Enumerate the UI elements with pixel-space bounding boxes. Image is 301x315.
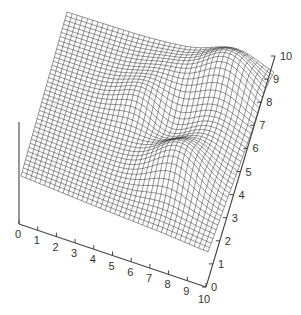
y-tick-label: 1 <box>218 258 224 270</box>
x-tick-label: 4 <box>90 253 96 265</box>
x-tick-label: 10 <box>198 293 210 305</box>
x-tick-label: 6 <box>127 266 133 278</box>
mesh-line <box>100 39 155 208</box>
x-tick-label: 9 <box>183 285 189 297</box>
y-tick-label: 9 <box>273 73 279 85</box>
y-tick-label: 5 <box>246 166 252 178</box>
x-tick-label: 7 <box>146 272 152 284</box>
mesh-line <box>175 49 237 238</box>
x-tick-label: 8 <box>165 278 171 290</box>
y-tick-label: 6 <box>252 142 258 154</box>
mesh-line <box>96 38 150 207</box>
x-tick-label: 3 <box>71 247 77 259</box>
mesh-line <box>72 30 124 197</box>
y-tick-label: 4 <box>239 189 245 201</box>
mesh-line <box>31 139 223 211</box>
x-tick-label: 2 <box>52 241 58 253</box>
x-tick-label: 0 <box>15 228 21 240</box>
y-tick-label: 3 <box>232 212 238 224</box>
x-tick-label: 1 <box>34 234 40 246</box>
y-tick-label: 7 <box>259 119 265 131</box>
y-tick-label: 2 <box>225 235 231 247</box>
mesh-line <box>110 42 166 212</box>
y-tick-label: 0 <box>211 281 217 293</box>
x-tick-label: 5 <box>109 260 115 272</box>
y-tick-label: 10 <box>280 50 292 62</box>
y-tick-label: 8 <box>266 96 272 108</box>
mesh-line <box>77 32 129 199</box>
mesh-line <box>30 143 221 216</box>
mesh-line <box>86 35 139 203</box>
mesh-line <box>208 72 274 252</box>
surface-plot: 012345678910 012345678910 <box>0 0 301 315</box>
